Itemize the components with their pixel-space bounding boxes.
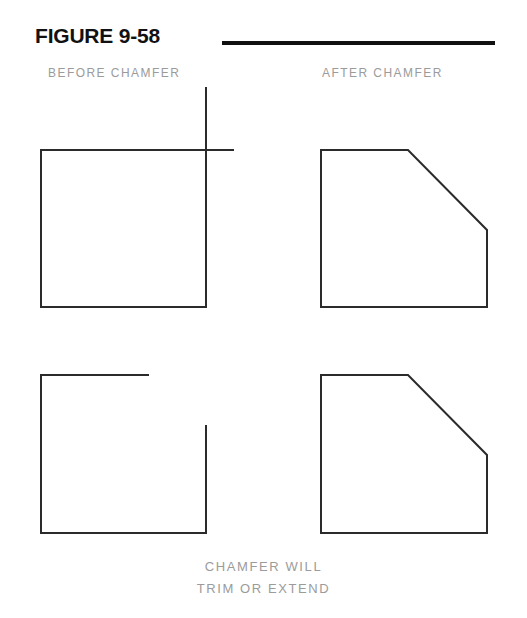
before-top-square-body: [41, 150, 206, 307]
column-label-after-chamfer: AFTER CHAMFER: [322, 66, 443, 79]
shape-before-chamfer-overlapping-corner: [41, 88, 233, 307]
title-divider-rule: [222, 41, 495, 45]
chamfer-diagram: [0, 0, 527, 618]
after-bottom-chamfered-outline: [321, 375, 487, 533]
before-bottom-left-and-bottom-edges: [41, 375, 206, 533]
figure-container: FIGURE 9-58 BEFORE CHAMFER AFTER CHAMFER…: [0, 0, 527, 618]
shape-after-chamfer-from-overlap: [321, 150, 487, 307]
shape-before-chamfer-gapped-corner: [41, 375, 206, 533]
figure-caption: CHAMFER WILL TRIM OR EXTEND: [0, 556, 527, 600]
after-top-chamfered-outline: [321, 150, 487, 307]
caption-line-2: TRIM OR EXTEND: [0, 578, 527, 600]
caption-line-1: CHAMFER WILL: [0, 556, 527, 578]
shape-after-chamfer-from-gap: [321, 375, 487, 533]
figure-title: FIGURE 9-58: [35, 25, 160, 46]
column-label-before-chamfer: BEFORE CHAMFER: [48, 66, 180, 79]
